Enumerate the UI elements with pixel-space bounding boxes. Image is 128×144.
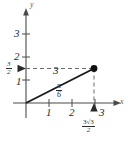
terminal-point-dot xyxy=(91,65,98,72)
y-axis-label: y xyxy=(30,1,34,9)
y-coordinate-denominator: 2 xyxy=(6,68,12,76)
x-value-pointer-arrow xyxy=(90,103,97,112)
x-tick-label-3: 3 xyxy=(99,107,105,118)
y-coordinate-numerator: 3 xyxy=(6,61,12,68)
y-coordinate-label: 3 2 xyxy=(6,61,12,76)
angle-denominator: 6 xyxy=(56,90,62,99)
y-tick-label-3: 3 xyxy=(14,28,20,39)
x-tick-label-2: 2 xyxy=(69,107,75,118)
x-tick-label-1: 1 xyxy=(46,107,52,118)
x-coordinate-denominator: 2 xyxy=(82,126,95,134)
angle-measure-label: π 6 xyxy=(56,82,62,99)
x-coordinate-numerator: 3√3 xyxy=(82,119,95,126)
angle-numerator: π xyxy=(56,82,62,90)
y-tick-label-2: 2 xyxy=(14,51,20,62)
x-coordinate-label: 3√3 2 xyxy=(82,119,95,134)
trigonometry-diagram: y x 3 2 1 1 2 3 3 π 6 3 2 3√3 2 xyxy=(0,0,128,144)
diagram-canvas xyxy=(0,0,128,144)
segment-length-label: 3 xyxy=(53,65,59,76)
y-tick-label-1: 1 xyxy=(16,76,22,87)
y-axis-arrowhead xyxy=(23,8,29,16)
x-axis-label: x xyxy=(120,98,124,106)
y-value-pointer-arrow xyxy=(18,65,27,72)
